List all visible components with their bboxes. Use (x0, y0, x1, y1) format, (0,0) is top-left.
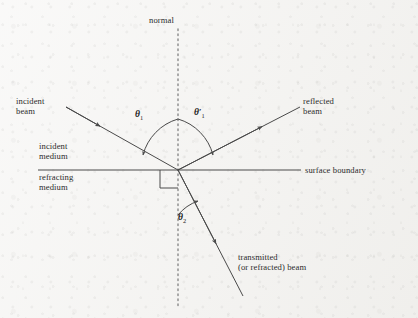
right-angle-marker-icon (160, 170, 178, 188)
theta1-arc (143, 119, 178, 155)
theta2-label: θ2 (178, 211, 186, 224)
theta1-prime-arc (178, 119, 213, 155)
incident-beam-arrow (66, 107, 100, 126)
surface-boundary-label: surface boundary (305, 165, 366, 175)
refracting-medium-label: refracting medium (39, 172, 73, 193)
transmitted-beam-arrow (178, 170, 216, 244)
normal-label: normal (149, 15, 174, 25)
incident-beam-label: incident beam (16, 96, 44, 117)
transmitted-beam-label: transmitted (or refracted) beam (238, 252, 306, 273)
reflected-beam-arrow (178, 127, 262, 170)
theta1-label: θ1 (135, 108, 143, 121)
incident-medium-label: incident medium (39, 141, 68, 162)
reflected-beam-label: reflected beam (303, 96, 334, 117)
refraction-diagram: normal incident beam reflected beam inci… (0, 0, 418, 318)
theta1-prime-label: θ′1 (194, 106, 205, 119)
